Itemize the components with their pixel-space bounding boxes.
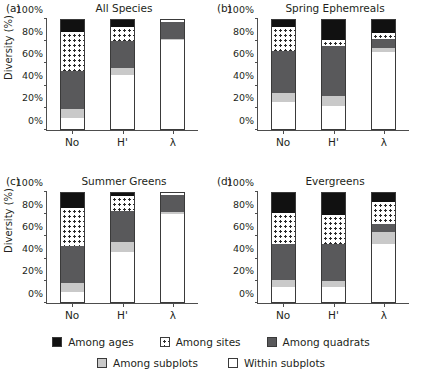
- x-axis-tick-mark: [334, 303, 335, 307]
- bar-segment-among-sites: [321, 40, 346, 46]
- x-axis-tick-label: No: [276, 309, 290, 321]
- panel-d-axes: 0%20%40%60%80%100%NoH'λ: [257, 192, 409, 304]
- x-axis-tick-label: No: [276, 136, 290, 148]
- y-axis-tick-label: 0%: [28, 116, 43, 126]
- panel-a-y-axis-label: Diversity (%): [3, 0, 14, 108]
- bar-segment-within-subplots: [160, 214, 185, 303]
- bar-segment-within-subplots: [110, 75, 135, 131]
- y-axis-tick-label: 40%: [22, 71, 43, 81]
- y-axis-tick-mark: [44, 235, 48, 236]
- legend-label-within-subplots: Within subplots: [244, 357, 325, 369]
- legend-swatch-within-subplots-icon: [228, 358, 238, 368]
- panel-b: (b) Spring Ephemreals 0%20%40%60%80%100%…: [211, 2, 422, 167]
- y-axis-tick-label: 20%: [233, 267, 254, 277]
- bar-segment-among-ages: [371, 192, 396, 202]
- y-axis-tick-label: 0%: [28, 289, 43, 299]
- x-axis-tick-mark: [283, 130, 284, 134]
- y-axis-tick-label: 100%: [227, 5, 254, 15]
- y-axis-tick-mark: [44, 280, 48, 281]
- bar-segment-among-ages: [371, 19, 396, 33]
- bar-segment-among-quadrats: [271, 244, 296, 280]
- panel-a-plot-area: 0%20%40%60%80%100%NoH'λ: [46, 19, 198, 131]
- bar-segment-among-subplots: [271, 280, 296, 288]
- x-axis-tick-mark: [173, 303, 174, 307]
- x-axis-tick-mark: [72, 303, 73, 307]
- y-axis-tick-mark: [44, 258, 48, 259]
- legend: Among ages Among sites Among quadrats Am…: [0, 336, 422, 369]
- legend-item-among-ages: Among ages: [52, 336, 134, 348]
- bar-segment-among-sites: [110, 196, 135, 210]
- bar-segment-among-ages: [110, 192, 135, 196]
- bar-segment-among-sites: [371, 33, 396, 39]
- bar-segment-among-sites: [160, 192, 185, 195]
- y-axis-tick-label: 40%: [233, 244, 254, 254]
- panel-b-title: Spring Ephemreals: [255, 2, 415, 14]
- bar-segment-among-quadrats: [371, 224, 396, 232]
- bar-segment-within-subplots: [371, 244, 396, 303]
- x-axis-tick-label: λ: [170, 136, 176, 148]
- bar-segment-among-sites: [110, 27, 135, 41]
- bar-segment-within-subplots: [321, 106, 346, 130]
- panel-a-axes: 0%20%40%60%80%100%NoH'λ: [46, 19, 198, 131]
- legend-item-among-sites: Among sites: [160, 336, 241, 348]
- y-axis-tick-mark: [255, 40, 259, 41]
- bar-segment-among-subplots: [160, 39, 185, 40]
- y-axis-tick-label: 80%: [22, 27, 43, 37]
- legend-item-among-subplots: Among subplots: [97, 357, 198, 369]
- bar-segment-within-subplots: [60, 118, 85, 130]
- y-axis-tick-label: 100%: [16, 178, 43, 188]
- bar-segment-among-quadrats: [110, 211, 135, 242]
- x-axis-tick-label: λ: [381, 309, 387, 321]
- bar-segment-among-sites: [371, 202, 396, 224]
- x-axis-tick-label: λ: [170, 309, 176, 321]
- y-axis-tick-label: 60%: [22, 222, 43, 232]
- legend-swatch-among-quadrats-icon: [267, 337, 277, 347]
- bar-1: [60, 19, 85, 130]
- bar-segment-among-ages: [321, 192, 346, 215]
- x-axis-tick-mark: [283, 303, 284, 307]
- panel-c-plot-area: 0%20%40%60%80%100%NoH'λ: [46, 192, 198, 304]
- bar-segment-among-subplots: [271, 93, 296, 102]
- y-axis-tick-mark: [255, 235, 259, 236]
- y-axis-tick-label: 60%: [22, 49, 43, 59]
- bar-segment-among-subplots: [60, 109, 85, 118]
- y-axis-tick-mark: [44, 18, 48, 19]
- bar-2: [321, 19, 346, 130]
- x-axis-tick-label: λ: [381, 136, 387, 148]
- bar-3: [160, 192, 185, 303]
- y-axis-tick-label: 40%: [233, 71, 254, 81]
- bar-segment-among-sites: [321, 215, 346, 244]
- bar-segment-among-quadrats: [160, 195, 185, 212]
- legend-label-among-quadrats: Among quadrats: [283, 336, 370, 348]
- y-axis-tick-mark: [255, 191, 259, 192]
- bar-segment-among-quadrats: [60, 246, 85, 283]
- y-axis-tick-mark: [44, 129, 48, 130]
- y-axis-tick-mark: [255, 85, 259, 86]
- x-axis-tick-mark: [173, 130, 174, 134]
- bar-segment-within-subplots: [160, 40, 185, 130]
- x-axis-tick-label: H': [117, 309, 128, 321]
- bar-segment-among-quadrats: [160, 22, 185, 39]
- bar-segment-among-quadrats: [371, 39, 396, 48]
- y-axis-tick-mark: [255, 18, 259, 19]
- legend-swatch-among-subplots-icon: [97, 358, 107, 368]
- y-axis-tick-mark: [255, 62, 259, 63]
- bar-segment-within-subplots: [60, 292, 85, 303]
- panel-d: (d) Evergreens 0%20%40%60%80%100%NoH'λ: [211, 175, 422, 340]
- bar-1: [271, 192, 296, 303]
- bar-2: [321, 192, 346, 303]
- x-axis-tick-mark: [123, 303, 124, 307]
- x-axis-tick-mark: [384, 303, 385, 307]
- bar-segment-among-subplots: [371, 48, 396, 52]
- bar-segment-among-ages: [271, 19, 296, 27]
- panel-d-title: Evergreens: [255, 175, 415, 187]
- x-axis-tick-mark: [384, 130, 385, 134]
- y-axis-tick-label: 100%: [227, 178, 254, 188]
- x-axis-tick-label: H': [328, 309, 339, 321]
- x-axis-tick-mark: [123, 130, 124, 134]
- panel-b-plot-area: 0%20%40%60%80%100%NoH'λ: [257, 19, 409, 131]
- y-axis-tick-mark: [255, 302, 259, 303]
- x-axis-tick-label: No: [65, 136, 79, 148]
- bar-segment-among-quadrats: [60, 71, 85, 109]
- bar-segment-among-sites: [271, 213, 296, 244]
